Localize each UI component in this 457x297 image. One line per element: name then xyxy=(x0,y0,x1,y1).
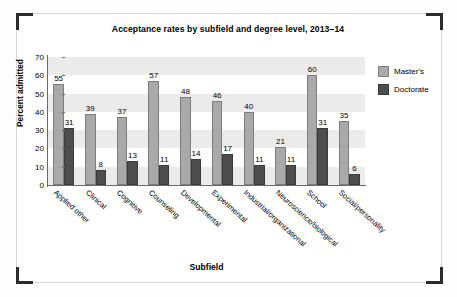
bar-value-label: 60 xyxy=(304,65,320,74)
bar-group: 3713 xyxy=(111,57,143,185)
y-axis-tick-label: 0 xyxy=(22,181,44,190)
bar-masters xyxy=(148,81,159,185)
bar-group: 4011 xyxy=(238,57,270,185)
bar-value-label: 31 xyxy=(61,118,77,127)
bar-masters xyxy=(275,147,286,185)
y-axis-tick-labels: 010203040506070 xyxy=(18,0,44,297)
y-axis-line xyxy=(47,55,48,187)
bar-doctorate xyxy=(191,159,202,185)
legend: Master's Doctorate xyxy=(378,66,429,102)
bar-group: 4617 xyxy=(207,57,239,185)
y-axis-tick-mark xyxy=(62,57,65,58)
bar-doctorate xyxy=(96,170,107,185)
legend-label-masters: Master's xyxy=(394,67,424,76)
bar-group: 5711 xyxy=(143,57,175,185)
bar-value-label: 37 xyxy=(114,107,130,116)
bar-group: 398 xyxy=(80,57,112,185)
bar-value-label: 11 xyxy=(156,155,172,164)
y-axis-tick-mark xyxy=(62,167,65,168)
bar-doctorate xyxy=(317,128,328,185)
y-axis-tick-label: 10 xyxy=(22,162,44,171)
y-axis-tick-mark xyxy=(62,112,65,113)
y-axis-tick-mark xyxy=(62,130,65,131)
bar-doctorate xyxy=(254,165,265,185)
bar-value-label: 31 xyxy=(315,118,331,127)
bar-doctorate xyxy=(286,165,297,185)
bar-masters xyxy=(307,75,318,185)
y-axis-tick-mark xyxy=(62,148,65,149)
bar-value-label: 14 xyxy=(188,149,204,158)
y-axis-tick-label: 40 xyxy=(22,107,44,116)
bar-value-label: 8 xyxy=(93,160,109,169)
bar-value-label: 35 xyxy=(336,111,352,120)
y-axis-tick-mark xyxy=(62,94,65,95)
legend-item-masters: Master's xyxy=(378,66,429,77)
bar-group: 356 xyxy=(333,57,365,185)
figure: Acceptance rates by subfield and degree … xyxy=(0,0,457,297)
bar-value-label: 39 xyxy=(82,104,98,113)
plot-area: 55313983713571148144617401121116031356 xyxy=(48,57,365,185)
bar-masters xyxy=(244,112,255,185)
bar-doctorate xyxy=(159,165,170,185)
bar-masters xyxy=(180,97,191,185)
x-axis-title: Subfield xyxy=(48,262,365,272)
x-axis-line xyxy=(47,185,366,186)
bar-masters xyxy=(53,84,64,185)
bar-value-label: 13 xyxy=(124,151,140,160)
legend-swatch-masters xyxy=(378,66,389,77)
y-axis-tick-label: 20 xyxy=(22,144,44,153)
corner-bracket-bottom-right xyxy=(426,267,443,284)
y-axis-tick-label: 70 xyxy=(22,53,44,62)
bar-doctorate xyxy=(349,174,360,185)
y-axis-tick-label: 50 xyxy=(22,89,44,98)
bar-value-label: 21 xyxy=(272,137,288,146)
bar-value-label: 48 xyxy=(177,87,193,96)
legend-swatch-doctorate xyxy=(378,84,389,95)
bar-doctorate xyxy=(64,128,75,185)
bar-value-label: 46 xyxy=(209,91,225,100)
y-axis-tick-label: 60 xyxy=(22,71,44,80)
bar-value-label: 57 xyxy=(146,71,162,80)
bar-value-label: 40 xyxy=(241,102,257,111)
bar-group: 2111 xyxy=(270,57,302,185)
bar-doctorate xyxy=(222,154,233,185)
bar-value-label: 11 xyxy=(251,155,267,164)
bar-masters xyxy=(339,121,350,185)
bar-masters xyxy=(85,114,96,185)
bar-doctorate xyxy=(127,161,138,185)
bar-value-label: 6 xyxy=(346,164,362,173)
bar-group: 6031 xyxy=(302,57,334,185)
bar-group: 4814 xyxy=(175,57,207,185)
bar-value-label: 17 xyxy=(220,144,236,153)
y-axis-tick-mark xyxy=(62,185,65,186)
legend-item-doctorate: Doctorate xyxy=(378,84,429,95)
y-axis-tick-mark xyxy=(62,75,65,76)
y-axis-tick-label: 30 xyxy=(22,126,44,135)
legend-label-doctorate: Doctorate xyxy=(394,85,429,94)
chart-title: Acceptance rates by subfield and degree … xyxy=(16,24,440,34)
bar-value-label: 11 xyxy=(283,155,299,164)
